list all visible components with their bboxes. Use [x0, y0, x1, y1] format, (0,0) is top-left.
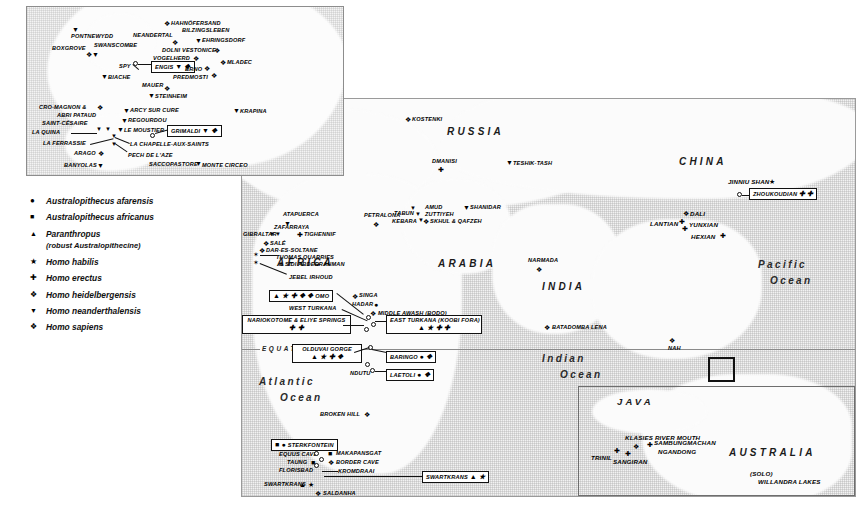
legend-symbol-neanderthalensis: ▼ [30, 306, 46, 316]
inset-site-marker-mauer: ❖ [164, 85, 170, 92]
site-marker-hexian: ✚ [720, 232, 726, 239]
site-label-sangiran: TRINIL [591, 455, 612, 461]
legend-label-sapiens: Homo sapiens [46, 322, 103, 332]
legend-row-heidelbergensis: ❖ Homo heidelbergensis [30, 290, 230, 300]
site-marker-sangiran: ✚ [614, 447, 620, 454]
inset-site-label-monte-circeo: MONTE CIRCEO [202, 163, 248, 169]
site-marker-sambungmachan: ✚ [625, 450, 631, 457]
inset-site-marker-arago: ❖ [98, 150, 104, 157]
callout-node-sa-3 [314, 463, 319, 468]
inset-site-label-steinheim: STEINHEIM [155, 94, 187, 100]
legend-symbol-habilis: ★ [30, 257, 46, 267]
callout-swartkrans: SWARTKRANS ▲ ★ [422, 471, 489, 483]
callout-symbols-sterkfontein: ■ ● [275, 441, 286, 448]
inset-site-marker-pontnewydd: ▼ [72, 26, 79, 33]
site-label-nah: NAH [668, 346, 681, 352]
inset-callout-label-engis: ENGIS [155, 64, 173, 70]
leader-thomas-quarries [260, 255, 277, 256]
site-label-florisbad: FLORISBAD [279, 468, 313, 474]
callout-symbols-baringo: ● ❖ [420, 353, 433, 360]
site-label-kromdraai: KROMDRAAI [338, 469, 374, 475]
inset-site-marker-dolni-vestonice: ❖ [214, 47, 220, 54]
site-marker-hadar: ● [374, 301, 378, 308]
site-marker-dali: ❖ [683, 210, 689, 217]
inset-site-label-vogelherd: VOGELHERD [153, 56, 190, 62]
site-label-klasies: SALDANHA [323, 491, 356, 497]
site-label-skhul-qafzeh: SKHUL & QAFZEH [430, 219, 482, 225]
site-marker-narmada: ❖ [536, 266, 542, 273]
inset-site-marker-vogelherd: ❖ [193, 55, 199, 62]
inset-leader-la-quina [71, 133, 97, 134]
inset-site-label-arcy-sur-cure: ARCY SUR CURE [130, 108, 179, 114]
legend-symbol-heidelbergensis: ❖ [30, 290, 46, 300]
inset-callout-label-grimaldi: GRIMALDI [171, 128, 200, 134]
site-label-jebel-irhoud: JEBEL IRHOUD [289, 275, 333, 281]
site-label-kebara: KEBARA [392, 219, 417, 225]
site-marker-ngandong: ✚ [647, 441, 653, 448]
site-label-broken-hill: BROKEN HILL [320, 412, 360, 418]
equator-line-left [242, 349, 260, 350]
callout-symbols-zhoukoudian: ✚ ✚ [799, 190, 814, 197]
inset-site-label-mauer: MAUER [142, 83, 163, 89]
site-label-kostenki: KOSTENKI [412, 117, 442, 123]
callout-symbols-swartkrans: ▲ ★ [470, 473, 485, 480]
site-label-yunxian: YUNXIAN [689, 222, 718, 228]
site-marker-broken-hill: ❖ [364, 411, 370, 418]
site-marker-nah: ❖ [669, 337, 675, 344]
callout-symbols-east-turkana: ▲ ★ ✚ ✚ [418, 324, 450, 331]
legend-label-habilis: Homo habilis [46, 257, 99, 267]
site-label-atapuerca: ATAPUERCA [283, 212, 319, 218]
inset-site-marker-cluster-a: ▼ [96, 126, 102, 132]
site-marker-teshik-tash: ▼ [506, 159, 513, 166]
legend-label-afarensis: Australopithecus afarensis [46, 196, 154, 206]
inset-site-marker-cro-magnon: ❖ [97, 104, 103, 111]
inset-site-label-bilzingsleben: BILZINGSLEBEN [182, 28, 229, 34]
site-label-ngandong: SAMBUNGMACHAN [654, 440, 716, 446]
site-marker-lantian: ✚ [679, 218, 685, 225]
site-label-tighennif: TIGHENNIF [304, 232, 336, 238]
site-marker-makapansgat: ■ [328, 450, 332, 457]
inset-site-label-boxgrove: BOXGROVE [52, 46, 86, 52]
inset-site-label-ehringsdorf: EHRINGSDORF [202, 38, 245, 44]
site-marker-jinniu-shan: ★ [769, 178, 775, 185]
site-label-narmada: NARMADA [528, 258, 558, 264]
ocean-label-pacific-line2: Ocean [770, 275, 813, 286]
site-label-hexian: HEXIAN [691, 234, 715, 240]
legend-row-habilis: ★ Homo habilis [30, 257, 230, 267]
landmass-siberia [442, 98, 856, 199]
site-label-lake-mungo: WILLANDRA LAKES [758, 479, 821, 485]
callout-label-baringo: BARINGO [390, 354, 418, 360]
callout-label-sterkfontein: STERKFONTEIN [288, 442, 334, 448]
legend-label-africanus: Australopithecus africanus [46, 212, 154, 222]
site-label-dali: DALI [690, 211, 705, 217]
landmass-seasia [592, 219, 762, 359]
leader-swartkrans [324, 476, 422, 477]
legend-row-paranthropus: ▲ Paranthropus [30, 229, 230, 239]
callout-label-nariokotome: NARIOKOTOME & ELIYE SPRINGS [248, 317, 346, 323]
ocean-label-atlantic-line1: Atlantic [259, 376, 315, 387]
callout-node-ea-2 [371, 322, 376, 327]
site-marker-dar-es-soltane: ❖ [259, 247, 265, 254]
site-label-jinniu-shan: JINNIU SHAN [728, 179, 770, 185]
inset-site-marker-regourdou: ▼ [121, 117, 128, 124]
inset-site-label-brno: BRNO [185, 67, 202, 73]
inset-site-marker-boxgrove: ❖▼ [86, 51, 99, 58]
inset-site-label-hahnofersand: HAHNÖFERSAND [171, 21, 221, 27]
legend-symbol-erectus: ✚ [30, 273, 46, 283]
region-label-india: INDIA [542, 281, 585, 292]
callout-baringo: BARINGO ● ❖ [386, 351, 436, 363]
site-label-sidi-abderrahman: & SIDI ABDERRAHMAN [279, 262, 345, 268]
site-label-dar-es-soltane: DAR-ES-SOLTANE [266, 248, 318, 254]
hominid-fossil-sites-map: EUROPE RUSSIA CHINA AFRICA ARABIA INDIA … [0, 0, 857, 524]
site-marker-kostenki: ❖ [405, 116, 411, 123]
ocean-label-indian-line1: Indian [542, 353, 586, 364]
callout-node-ea-5 [365, 362, 370, 367]
callout-label-omo: OMO [315, 293, 329, 299]
site-marker-yunxian: ✚ [682, 225, 688, 232]
inset-site-label-saccopastore: SACCOPASTORE [149, 162, 198, 168]
callout-zhoukoudian: ZHOUKOUDIAN ✚ ✚ [749, 188, 817, 200]
site-label-ndutu: NDUTU [350, 371, 370, 377]
inset-site-label-saint-cesaire: SAINT-CÉSAIRE [42, 121, 88, 127]
legend-row-afarensis: ● Australopithecus afarensis [30, 196, 230, 206]
inset-site-label-mladec: MLADEC [227, 60, 252, 66]
